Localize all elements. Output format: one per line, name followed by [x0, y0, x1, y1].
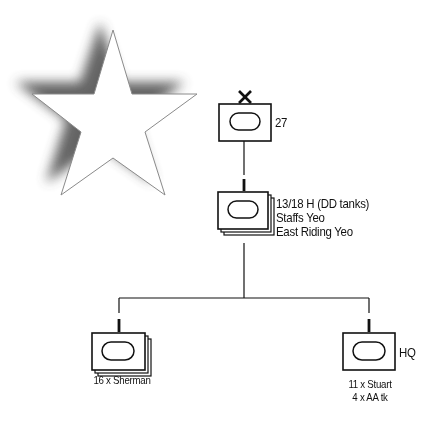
armour-oval-icon	[353, 342, 385, 360]
brigade-number-label: 27	[275, 116, 287, 130]
regiment-name: 13/18 H (DD tanks)	[276, 197, 369, 211]
regiments-node	[218, 192, 274, 235]
armour-oval-icon	[102, 342, 134, 360]
order-of-battle-diagram	[0, 0, 438, 423]
star-icon	[15, 22, 197, 195]
brigade-node	[219, 91, 271, 141]
hq-caption: 11 x Stuart 4 x AA tk	[337, 378, 404, 404]
hq-node	[343, 333, 395, 370]
armour-oval-icon	[228, 201, 258, 218]
regiments-label: 13/18 H (DD tanks) Staffs Yeo East Ridin…	[276, 197, 369, 239]
brigade-size-marker-icon	[239, 91, 251, 103]
squadrons-caption: 16 x Sherman	[89, 374, 156, 387]
squadrons-node	[92, 333, 151, 376]
connector-regiments-branches	[119, 243, 369, 332]
regiment-name: East Riding Yeo	[276, 225, 369, 239]
regiment-name: Staffs Yeo	[276, 211, 369, 225]
hq-caption-line: 11 x Stuart	[337, 378, 404, 391]
armour-oval-icon	[230, 113, 260, 130]
hq-caption-line: 4 x AA tk	[337, 391, 404, 404]
hq-label: HQ	[399, 346, 416, 360]
